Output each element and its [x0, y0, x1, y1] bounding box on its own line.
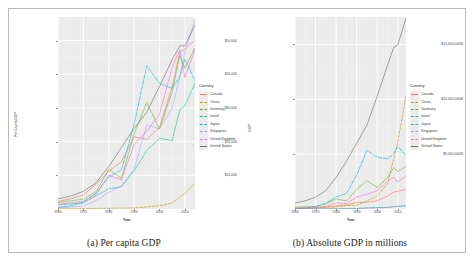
legend-item-label: Japan: [210, 122, 220, 126]
chart-b-x-tick-mark: [398, 209, 399, 211]
legend-key-swatch: [410, 98, 419, 105]
chart-b-x-tick-mark: [316, 209, 317, 211]
chart-b-legend-items: CanadaChinaGermanyIsraelJapanSingaporeUn…: [410, 91, 447, 150]
legend-item-singapore[interactable]: Singapore: [199, 127, 236, 134]
legend-item-germany[interactable]: Germany: [410, 105, 447, 112]
chart-b-y-axis-title: GDP: [248, 102, 252, 132]
legend-item-label: Japan: [421, 122, 431, 126]
figure-caption-b: (b) Absolute GDP in millions: [237, 238, 463, 248]
legend-item-united-kingdom[interactable]: United Kingdom: [410, 135, 447, 142]
chart-a-x-tick-mark: [159, 209, 160, 211]
chart-a-y-tick-label: $50,000: [192, 39, 237, 43]
chart-a-series-line: [58, 25, 195, 199]
chart-a-legend-title: Country: [199, 83, 236, 88]
legend-item-label: Germany: [421, 107, 436, 111]
chart-a-legend-items: CanadaChinaGermanyIsraelJapanSingaporeUn…: [199, 91, 236, 150]
chart-a-series-line: [58, 19, 195, 207]
legend-key-swatch: [199, 91, 208, 98]
figure-panel-a: PerCapitaGDP $10,000$20,000$30,000$40,00…: [11, 11, 237, 252]
chart-a-x-axis-title: Year: [58, 218, 195, 222]
legend-key-swatch: [199, 98, 208, 105]
legend-item-canada[interactable]: Canada: [410, 91, 447, 98]
chart-a-y-tick-label: $10,000: [192, 173, 237, 177]
figure-caption-a: (a) Per capita GDP: [11, 238, 237, 248]
chart-b-series-line: [295, 176, 406, 208]
legend-item-label: Canada: [421, 92, 434, 96]
legend-key-swatch: [410, 113, 419, 120]
legend-key-swatch: [410, 127, 419, 134]
chart-b-y-tick-label: $15,000,000M: [407, 42, 463, 46]
chart-a-x-tick-mark: [83, 209, 84, 211]
chart-a-y-tick-label: $40,000: [192, 72, 237, 76]
chart-b-x-tick-mark: [336, 209, 337, 211]
legend-key-swatch: [410, 105, 419, 112]
chart-b-x-axis-title: Year: [295, 218, 406, 222]
legend-item-label: United States: [421, 144, 443, 148]
legend-item-label: Canada: [210, 92, 223, 96]
legend-item-canada[interactable]: Canada: [199, 91, 236, 98]
chart-a-plot-panel: [58, 17, 195, 209]
legend-item-israel[interactable]: Israel: [410, 113, 447, 120]
chart-a-x-tick-mark: [109, 209, 110, 211]
figure-frame: PerCapitaGDP $10,000$20,000$30,000$40,00…: [8, 8, 466, 253]
legend-item-singapore[interactable]: Singapore: [410, 127, 447, 134]
figure-panel-b: GDP $5,000,000M$10,000,000M$15,000,000M …: [237, 11, 463, 252]
chart-a-series-line: [58, 83, 195, 205]
chart-b-legend-title: Country: [410, 83, 447, 88]
chart-b-y-tick-label: $5,000,000M: [407, 152, 463, 156]
legend-item-label: United States: [210, 144, 232, 148]
chart-a-x-tick-mark: [58, 209, 59, 211]
chart-a-series-line: [58, 49, 195, 204]
legend-item-japan[interactable]: Japan: [410, 120, 447, 127]
chart-b: GDP $5,000,000M$10,000,000M$15,000,000M …: [237, 11, 463, 219]
legend-item-israel[interactable]: Israel: [199, 113, 236, 120]
legend-key-swatch: [410, 135, 419, 142]
legend-item-united-states[interactable]: United States: [199, 142, 236, 149]
chart-b-x-tick-mark: [377, 209, 378, 211]
legend-item-japan[interactable]: Japan: [199, 120, 236, 127]
chart-a-y-axis-title: PerCapitaGDP: [14, 97, 18, 137]
legend-item-label: United Kingdom: [421, 137, 447, 141]
legend-item-china[interactable]: China: [199, 98, 236, 105]
legend-item-china[interactable]: China: [410, 98, 447, 105]
legend-item-label: Israel: [210, 114, 219, 118]
chart-b-x-tick-mark: [357, 209, 358, 211]
chart-b-series-line: [295, 95, 406, 208]
legend-item-germany[interactable]: Germany: [199, 105, 236, 112]
legend-item-label: China: [421, 100, 430, 104]
legend-item-label: Israel: [421, 114, 430, 118]
legend-item-label: Singapore: [210, 129, 226, 133]
chart-b-svg: [295, 17, 406, 209]
legend-key-swatch: [410, 91, 419, 98]
chart-a: PerCapitaGDP $10,000$20,000$30,000$40,00…: [11, 11, 237, 219]
chart-a-series-line: [58, 183, 195, 208]
chart-b-x-tick-mark: [295, 209, 296, 211]
legend-key-swatch: [199, 127, 208, 134]
legend-item-label: Singapore: [421, 129, 437, 133]
legend-item-label: United Kingdom: [210, 137, 236, 141]
legend-item-united-states[interactable]: United States: [410, 142, 447, 149]
chart-a-legend: Country CanadaChinaGermanyIsraelJapanSin…: [199, 83, 236, 150]
chart-a-x-tick-mark: [185, 209, 186, 211]
legend-key-swatch: [199, 105, 208, 112]
legend-item-label: China: [210, 100, 219, 104]
chart-a-x-tick-mark: [134, 209, 135, 211]
chart-a-series-line: [58, 40, 195, 201]
legend-key-swatch: [410, 120, 419, 127]
chart-b-plot-panel: [295, 17, 406, 209]
legend-item-label: Germany: [210, 107, 225, 111]
legend-key-swatch: [199, 135, 208, 142]
legend-key-swatch: [410, 142, 419, 149]
legend-item-united-kingdom[interactable]: United Kingdom: [199, 135, 236, 142]
legend-key-swatch: [199, 142, 208, 149]
legend-key-swatch: [199, 113, 208, 120]
chart-b-legend: Country CanadaChinaGermanyIsraelJapanSin…: [410, 83, 447, 150]
chart-a-svg: [58, 17, 195, 209]
legend-key-swatch: [199, 120, 208, 127]
